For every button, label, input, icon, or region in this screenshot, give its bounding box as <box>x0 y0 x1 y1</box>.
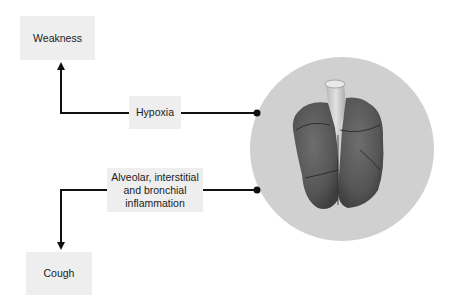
edge-hypoxia-weakness <box>61 66 129 113</box>
node-cough-label: Cough <box>44 267 75 280</box>
node-inflammation: Alveolar, interstitial and bronchial inf… <box>107 168 203 212</box>
node-weakness: Weakness <box>20 16 95 60</box>
edge-inflammation-cough <box>61 190 107 246</box>
node-hypoxia-label: Hypoxia <box>136 106 174 119</box>
node-hypoxia: Hypoxia <box>129 96 181 129</box>
connector-dot-hypoxia <box>254 110 261 117</box>
connector-dot-inflammation <box>254 187 261 194</box>
node-weakness-label: Weakness <box>33 32 82 45</box>
node-cough: Cough <box>26 252 92 295</box>
node-inflammation-label: Alveolar, interstitial and bronchial inf… <box>107 171 203 210</box>
